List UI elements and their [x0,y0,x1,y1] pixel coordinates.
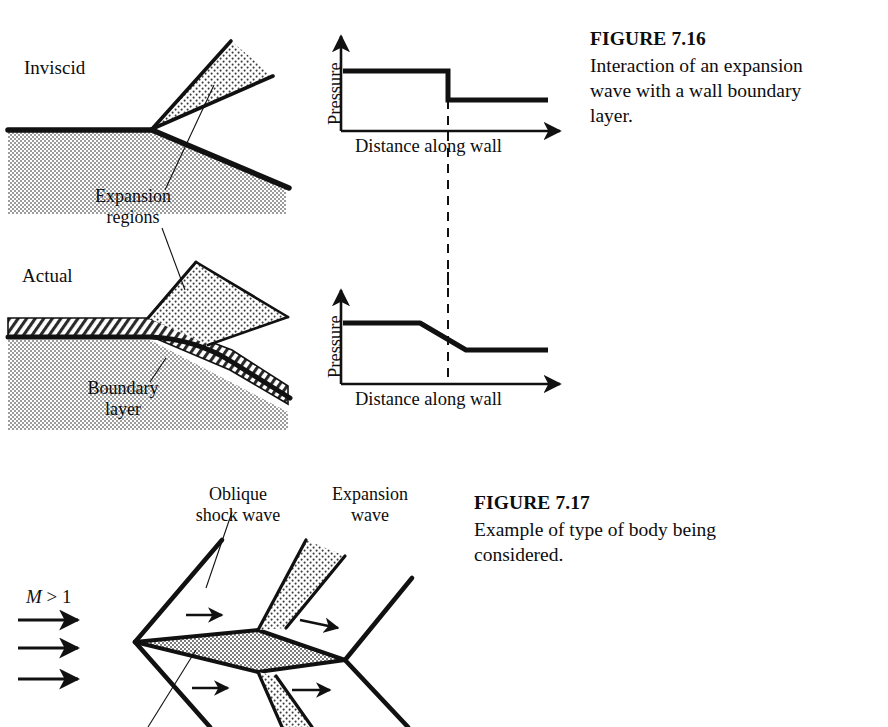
lower-expansion-fan-fill [258,672,312,727]
expansion-wave-label-line-1: Expansion [310,484,430,505]
expansion-wave-label-line-2: wave [310,505,430,526]
inviscid-label: Inviscid [24,57,85,79]
trailing-shock-lower [345,660,408,727]
actual-label: Actual [22,265,73,287]
actual-fan-leader [162,228,185,290]
figure-7-17-caption-line-1: Example of type of body being [474,517,716,543]
inviscid-plot-ylabel: Pressure [325,62,346,125]
figure-7-16-caption-line-1: Interaction of an expansion [590,53,803,79]
figure-7-16-caption-line-2: wave with a wall boundary [590,78,801,104]
expansion-regions-label-line-2: regions [58,207,208,228]
figure-7-17-caption-line-2: considered. [474,542,563,568]
oblique-shock-label-line-2: shock wave [178,505,298,526]
inviscid-pressure-plot [341,36,560,290]
actual-plot-xlabel: Distance along wall [355,389,502,410]
figure-canvas [0,0,888,727]
figure-7-16-caption-line-3: layer. [590,103,633,129]
figure-7-16-caption-title: FIGURE 7.16 [590,28,706,50]
mach-symbol: M [26,586,42,607]
diamond-body [135,630,345,672]
oblique-shock-label-line-1: Oblique [178,484,298,505]
upper-expansion-fan-fill [258,540,345,630]
figure-page: FIGURE 7.16 Interaction of an expansion … [0,0,888,727]
boundary-layer-label-line-2: layer [48,399,198,420]
actual-plot-ylabel: Pressure [325,315,346,378]
mach-number-label: M > 1 [26,586,72,608]
figure-7-17-caption-title: FIGURE 7.17 [474,492,590,514]
leading-shock-upper [135,540,222,642]
surface-arrow-upper-aft [300,620,338,628]
actual-pressure-curve [343,323,548,350]
actual-pressure-plot [341,272,560,384]
inviscid-pressure-curve [343,71,548,100]
mach-relation: > 1 [42,586,72,607]
diamond-body-diagram [18,512,412,727]
inviscid-plot-xlabel: Distance along wall [355,136,502,157]
boundary-layer-label-line-1: Boundary [48,378,198,399]
expansion-regions-label-line-1: Expansion [58,186,208,207]
trailing-shock-upper [345,578,412,660]
